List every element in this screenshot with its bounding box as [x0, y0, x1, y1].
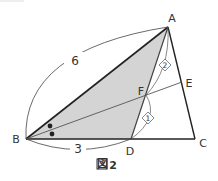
ratio-1-label: 1 [146, 114, 151, 123]
angle-mark-dot-lower [50, 132, 55, 137]
figure-caption: 図 2 [97, 157, 117, 172]
caption-kanji: 図 [97, 157, 108, 171]
caption-number: 2 [109, 159, 117, 172]
ratio-badge-1: 1 [142, 112, 154, 124]
geometry-figure: 2 1 6 3 A B C D E F 図 2 [0, 0, 218, 181]
point-label-b: B [12, 133, 20, 146]
point-label-f: F [138, 85, 144, 98]
point-label-c: C [199, 137, 207, 150]
length-label-bd: 3 [74, 142, 82, 156]
angle-mark-dot-upper [48, 124, 53, 129]
length-label-ab: 6 [71, 54, 79, 68]
point-label-a: A [168, 12, 176, 25]
ratio-badge-2: 2 [159, 59, 171, 71]
point-label-d: D [126, 145, 134, 158]
ratio-2-label: 2 [163, 61, 168, 70]
point-label-e: E [186, 77, 193, 90]
